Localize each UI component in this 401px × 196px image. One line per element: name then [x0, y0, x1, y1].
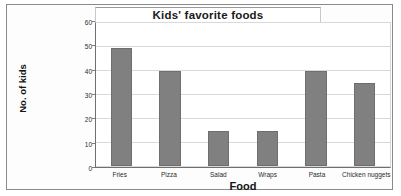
gridline — [96, 22, 390, 23]
y-axis-tick-label: 40 — [72, 67, 92, 74]
bar[interactable] — [257, 131, 278, 167]
chart-title: Kids' favorite foods — [95, 7, 321, 23]
bar-slot — [194, 24, 243, 166]
x-axis-tick-label: Wraps — [243, 169, 292, 179]
gridline — [96, 166, 390, 167]
x-axis-labels: FriesPizzaSaladWrapsPastaChicken nuggets — [95, 169, 391, 179]
x-axis-tick-label: Pizza — [144, 169, 193, 179]
y-axis-tick-label: 30 — [72, 92, 92, 99]
y-axis-tick-mark — [92, 45, 95, 46]
bar-slot — [292, 24, 341, 166]
y-axis-tick-label: 60 — [72, 19, 92, 26]
x-axis-tick-label: Fries — [95, 169, 144, 179]
y-axis-title: No. of kids — [17, 58, 28, 120]
y-axis-tick-label: 20 — [72, 116, 92, 123]
bars-layer — [97, 24, 389, 166]
y-axis-tick-mark — [92, 94, 95, 95]
y-axis-tick-mark — [92, 118, 95, 119]
plot-region: 0102030405060 — [95, 22, 391, 168]
y-axis-tick-mark — [92, 21, 95, 22]
y-axis-tick-mark — [92, 167, 95, 168]
y-axis-tick-mark — [92, 70, 95, 71]
plot-area — [95, 22, 391, 168]
x-axis-tick-label: Pasta — [292, 169, 341, 179]
x-axis-tick-label: Chicken nuggets — [342, 169, 391, 179]
y-axis-tick-mark — [92, 143, 95, 144]
bar[interactable] — [354, 83, 375, 166]
bar[interactable] — [305, 71, 326, 166]
bar[interactable] — [111, 48, 132, 166]
x-axis-title: Food — [95, 180, 391, 192]
x-axis-tick-label: Salad — [194, 169, 243, 179]
chart-frame: Kids' favorite foods No. of kids 0102030… — [6, 4, 393, 190]
y-axis-tick-label: 50 — [72, 43, 92, 50]
bar[interactable] — [159, 71, 180, 166]
bar-slot — [146, 24, 195, 166]
y-axis-tick-label: 10 — [72, 140, 92, 147]
y-axis-tick-label: 0 — [72, 165, 92, 172]
bar-slot — [97, 24, 146, 166]
bar[interactable] — [208, 131, 229, 167]
bar-slot — [340, 24, 389, 166]
bar-slot — [243, 24, 292, 166]
